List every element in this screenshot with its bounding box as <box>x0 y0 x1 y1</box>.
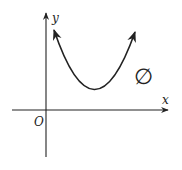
parabola-diagram: y x O ∅ <box>0 0 182 170</box>
empty-set-symbol: ∅ <box>134 64 153 89</box>
x-axis-label: x <box>162 93 169 107</box>
origin-label: O <box>34 115 44 129</box>
y-axis-label: y <box>51 11 59 25</box>
parabola-curve <box>54 30 135 90</box>
